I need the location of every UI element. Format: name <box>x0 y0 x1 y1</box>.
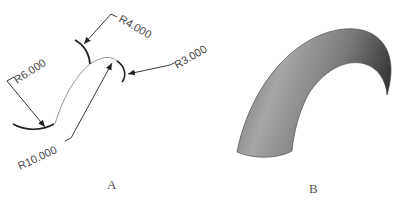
figure-canvas: R4.000 R6.000 R3.000 R10.000 A B <box>0 0 399 200</box>
r4-leader <box>84 14 117 44</box>
panel-a-wireframe: R4.000 R6.000 R3.000 R10.000 A <box>7 12 209 192</box>
r10-profile-arc <box>55 57 117 124</box>
r3-leader <box>128 63 174 74</box>
swept-surface <box>237 29 391 157</box>
panel-b-solid: B <box>237 29 391 196</box>
figure-svg: R4.000 R6.000 R3.000 R10.000 A B <box>0 0 399 200</box>
r4-arc <box>75 40 90 64</box>
r3-dimension-label: R3.000 <box>172 43 209 71</box>
r10-leader <box>65 63 112 141</box>
panel-b-label: B <box>309 181 318 196</box>
r6-arc <box>13 124 54 129</box>
r4-dimension-label: R4.000 <box>117 12 154 40</box>
r10-dimension-label: R10.000 <box>16 143 59 171</box>
panel-a-label: A <box>107 177 117 192</box>
r6-leader <box>7 77 45 127</box>
r3-arc <box>117 61 125 82</box>
r6-dimension-label: R6.000 <box>12 56 48 85</box>
